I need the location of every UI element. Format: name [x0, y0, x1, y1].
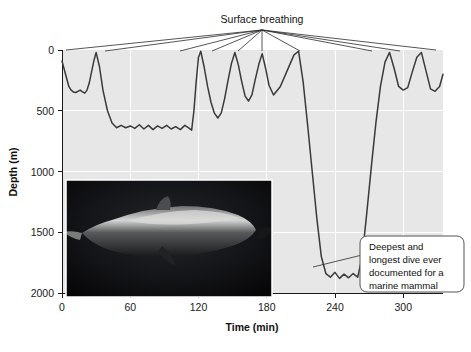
x-axis-title: Time (min): [226, 321, 279, 333]
record-dive-text-line-4: marine mammal: [369, 280, 438, 291]
surface-breathing-label: Surface breathing: [221, 13, 304, 25]
x-tick-label-60: 60: [124, 301, 136, 313]
beaked-whale-photo: [64, 180, 272, 297]
x-tick-label-240: 240: [326, 301, 344, 313]
y-tick-label-1000: 1000: [31, 166, 55, 178]
record-dive-text-line-2: longest dive ever: [369, 254, 442, 265]
y-axis-title: Depth (m): [7, 148, 19, 197]
x-tick-label-300: 300: [395, 301, 413, 313]
dive-profile-chart: 0 500 1000 1500 2000 Depth (m) 0 60 120 …: [0, 0, 471, 352]
y-tick-label-0: 0: [48, 44, 54, 56]
record-dive-text-line-3: documented for a: [369, 267, 444, 278]
y-tick-label-1500: 1500: [31, 226, 55, 238]
x-tick-label-180: 180: [258, 301, 276, 313]
y-tick-label-2000: 2000: [31, 287, 55, 299]
x-tick-label-0: 0: [59, 301, 65, 313]
dive-profile-figure: 0 500 1000 1500 2000 Depth (m) 0 60 120 …: [0, 0, 471, 352]
record-dive-text-line-1: Deepest and: [369, 241, 423, 252]
y-tick-label-500: 500: [36, 105, 54, 117]
x-tick-label-120: 120: [190, 301, 208, 313]
